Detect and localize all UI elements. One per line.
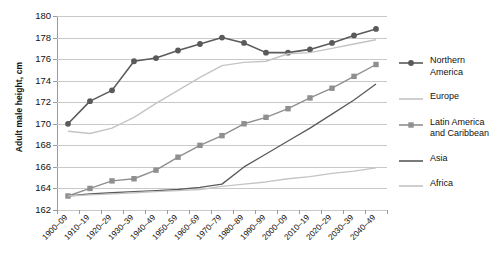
y-axis-tick-label: 164 — [17, 183, 51, 193]
legend-label: Asia — [430, 153, 504, 165]
data-point-marker — [175, 154, 180, 159]
y-axis-tick-mark — [53, 102, 57, 103]
x-axis-tick-mark — [321, 210, 322, 214]
y-axis-tick-label: 170 — [17, 119, 51, 129]
y-axis-tick-label: 176 — [17, 54, 51, 64]
x-axis-tick-mark — [211, 210, 212, 214]
series-layer — [57, 16, 387, 210]
x-axis-tick-mark — [189, 210, 190, 214]
legend-swatch-line-icon — [398, 91, 424, 103]
legend-label: Africa — [430, 178, 504, 190]
data-point-marker — [351, 33, 357, 39]
y-axis-tick-mark — [53, 38, 57, 39]
legend-item-asia[interactable]: Asia — [398, 153, 504, 165]
data-point-marker — [373, 62, 378, 67]
y-axis-tick-label: 166 — [17, 162, 51, 172]
y-axis-tick-mark — [53, 167, 57, 168]
data-point-marker — [263, 115, 268, 120]
y-axis-tick-label: 162 — [17, 205, 51, 215]
y-axis-tick-label: 174 — [17, 76, 51, 86]
data-point-marker — [109, 87, 115, 93]
legend-label: Europe — [430, 91, 504, 103]
x-axis-tick-mark — [277, 210, 278, 214]
y-axis-tick-mark — [53, 124, 57, 125]
legend-label: Latin America — [430, 117, 504, 129]
data-point-marker — [87, 98, 93, 104]
data-point-marker — [65, 121, 71, 127]
legend-item-latin-america[interactable]: Latin Americaand Caribbean — [398, 117, 504, 140]
x-axis-tick-mark — [101, 210, 102, 214]
y-axis-tick-label: 178 — [17, 33, 51, 43]
legend-label-continued: and Caribbean — [430, 128, 504, 140]
data-point-marker — [131, 176, 136, 181]
x-axis-tick-mark — [365, 210, 366, 214]
y-axis-tick-mark — [53, 16, 57, 17]
chart-legend: NorthernAmericaEuropeLatin Americaand Ca… — [398, 55, 504, 204]
chart-container: Adult male height, cm 162164166168170172… — [0, 0, 504, 268]
legend-item-africa[interactable]: Africa — [398, 178, 504, 190]
x-axis-tick-mark — [387, 210, 388, 214]
x-axis-tick-mark — [123, 210, 124, 214]
data-point-marker — [197, 41, 203, 47]
x-axis-tick-mark — [79, 210, 80, 214]
data-point-marker — [351, 74, 356, 79]
x-axis-tick-mark — [299, 210, 300, 214]
x-axis-tick-mark — [145, 210, 146, 214]
data-point-marker — [219, 35, 225, 41]
x-axis-tick-mark — [167, 210, 168, 214]
y-axis-tick-mark — [53, 81, 57, 82]
data-point-marker — [329, 86, 334, 91]
data-point-marker — [241, 40, 247, 46]
y-axis-tick-mark — [53, 59, 57, 60]
y-axis-tick-label: 168 — [17, 140, 51, 150]
x-axis-tick-mark — [233, 210, 234, 214]
legend-item-europe[interactable]: Europe — [398, 91, 504, 103]
data-point-marker — [263, 50, 269, 56]
series-line-latin-america-and-caribbean — [68, 65, 376, 196]
data-point-marker — [219, 133, 224, 138]
data-point-marker — [153, 55, 159, 61]
data-point-marker — [285, 106, 290, 111]
legend-label-continued: America — [430, 67, 504, 79]
legend-item-northern[interactable]: NorthernAmerica — [398, 55, 504, 78]
data-point-marker — [307, 95, 312, 100]
x-axis-tick-mark — [343, 210, 344, 214]
gridline — [57, 210, 387, 211]
data-point-marker — [307, 47, 313, 53]
data-point-marker — [197, 143, 202, 148]
data-point-marker — [153, 167, 158, 172]
y-axis-tick-mark — [53, 188, 57, 189]
x-axis-tick-mark — [255, 210, 256, 214]
data-point-marker — [87, 186, 92, 191]
y-axis-tick-label: 172 — [17, 97, 51, 107]
x-axis-tick-mark — [57, 210, 58, 214]
data-point-marker — [131, 58, 137, 64]
data-point-marker — [175, 48, 181, 54]
legend-label: Northern — [430, 55, 504, 67]
legend-swatch-circle-icon — [398, 55, 424, 67]
plot-area — [57, 16, 387, 210]
data-point-marker — [241, 121, 246, 126]
data-point-marker — [329, 40, 335, 46]
legend-swatch-line-icon — [398, 153, 424, 165]
y-axis-tick-mark — [53, 145, 57, 146]
data-point-marker — [109, 178, 114, 183]
legend-swatch-line-icon — [398, 178, 424, 190]
legend-swatch-square-icon — [398, 117, 424, 129]
y-axis-tick-label: 180 — [17, 11, 51, 21]
data-point-marker — [373, 26, 379, 32]
